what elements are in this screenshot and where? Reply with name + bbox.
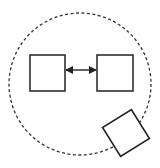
diagram-canvas <box>0 0 160 168</box>
left-square-node <box>30 55 65 91</box>
right-square-node <box>97 55 133 91</box>
